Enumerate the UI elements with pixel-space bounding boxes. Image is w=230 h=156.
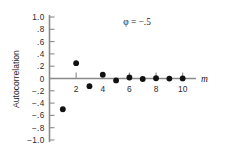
phi-annotation: φ = −.5	[123, 17, 151, 27]
x-axis-title: m	[201, 74, 208, 84]
x-tick-label: 4	[100, 84, 105, 94]
data-point	[180, 76, 186, 82]
data-point	[87, 83, 93, 89]
x-tick-label: 6	[127, 84, 132, 94]
y-tick-label: .2	[37, 62, 45, 71]
data-point	[127, 75, 133, 81]
data-point	[166, 76, 172, 82]
x-tick-label: 8	[154, 84, 159, 94]
y-tick-label: .4	[37, 50, 45, 59]
y-tick-label: −.2	[32, 87, 45, 96]
autocorrelation-chart-figure: 1.0.8.6.4.20−.2−.4−.6−.8−1.0 246810 Auto…	[0, 0, 230, 156]
data-point	[60, 106, 66, 112]
y-tick-label: −.8	[32, 124, 45, 133]
data-point	[140, 76, 146, 82]
x-tick-label: 2	[74, 84, 79, 94]
autocorrelation-plot: 1.0.8.6.4.20−.2−.4−.6−.8−1.0 246810 Auto…	[0, 0, 230, 156]
y-tick-label: .8	[37, 25, 45, 34]
y-tick-label: 0	[40, 75, 45, 84]
y-axis-title: Autocorrelation	[11, 50, 21, 108]
y-tick-label: 1.0	[32, 13, 44, 22]
data-point	[153, 75, 159, 81]
data-point	[100, 72, 106, 78]
y-tick-label: −1.0	[27, 136, 45, 145]
data-point	[113, 78, 119, 84]
x-tick-label: 10	[178, 84, 188, 94]
y-tick-label: −.6	[32, 111, 45, 120]
y-tick-label: −.4	[32, 99, 45, 108]
y-tick-label: .6	[37, 38, 45, 47]
data-point	[73, 60, 79, 66]
